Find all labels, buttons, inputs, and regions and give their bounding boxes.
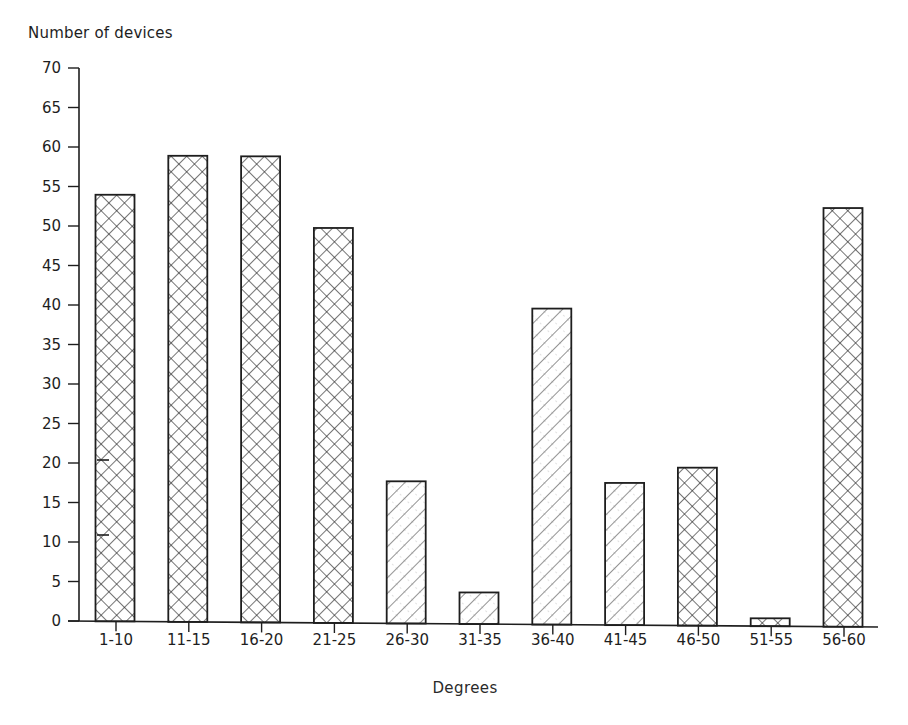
bar-1-10 [96,195,135,622]
bar-41-45 [605,483,644,625]
y-tick-label: 50 [42,217,61,235]
y-tick-label: 55 [42,178,61,196]
y-axis-title: Number of devices [28,24,173,42]
y-tick-label: 40 [42,296,61,314]
bar-36-40 [532,309,571,625]
x-tick-label: 51-55 [749,631,793,649]
bar-46-50 [678,468,717,626]
y-tick-label: 0 [51,612,61,630]
x-tick-label: 1-10 [99,631,133,649]
y-tick-label: 5 [51,573,61,591]
y-tick-label: 45 [42,257,61,275]
y-tick-label: 70 [42,59,61,77]
x-tick-label: 46-50 [677,631,721,649]
x-tick-label: 11-15 [167,631,211,649]
x-tick-label: 31-35 [458,631,502,649]
y-tick-label: 25 [42,415,61,433]
bar-26-30 [387,481,426,623]
bar-16-20 [241,156,280,622]
bar-11-15 [168,156,207,622]
bars [96,156,863,627]
y-tick-label: 10 [42,533,61,551]
y-tick-label: 35 [42,336,61,354]
y-tick-label: 30 [42,375,61,393]
x-tick-label: 26-30 [385,631,429,649]
x-tick-label: 36-40 [531,631,575,649]
bar-56-60 [824,208,863,627]
y-tick-label: 65 [42,99,61,117]
x-tick-label: 41-45 [604,631,648,649]
bar-chart: Number of devices 0510152025303540455055… [0,0,908,725]
y-tick-label: 60 [42,138,61,156]
axes: 05101520253035404550556065701-1011-1516-… [42,59,878,649]
x-tick-label: 56-60 [822,631,866,649]
bar-51-55 [751,618,790,626]
bar-31-35 [460,592,499,624]
x-axis-title: Degrees [0,679,908,697]
bar-21-25 [314,228,353,623]
x-tick-label: 21-25 [313,631,357,649]
plot-area: 05101520253035404550556065701-1011-1516-… [0,0,908,725]
y-tick-label: 20 [42,454,61,472]
x-tick-label: 16-20 [240,631,284,649]
y-tick-label: 15 [42,494,61,512]
